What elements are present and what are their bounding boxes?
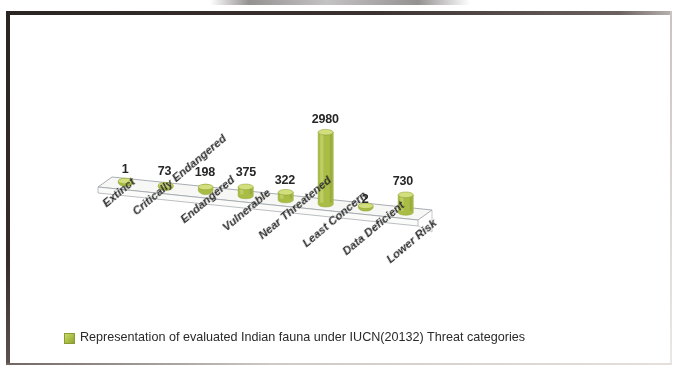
frame-border-right — [670, 11, 672, 365]
chart-frame: 17319837532229802730 ExtinctCritically E… — [6, 11, 672, 365]
value-label-near-threatened: 322 — [275, 173, 295, 187]
value-label-endangered: 198 — [195, 165, 215, 179]
legend-label: Representation of evaluated Indian fauna… — [80, 329, 525, 347]
bar-chart-3d — [10, 15, 670, 363]
value-label-extinct: 1 — [122, 162, 129, 176]
scan-artifact — [210, 0, 470, 5]
legend-color-swatch — [64, 333, 75, 344]
value-label-lower-risk: 730 — [393, 174, 413, 188]
chart-legend: Representation of evaluated Indian fauna… — [64, 329, 584, 347]
bar-least-concern — [318, 129, 333, 207]
value-label-vulnerable: 375 — [236, 165, 256, 179]
value-label-least-concern: 2980 — [312, 112, 339, 126]
frame-border-bottom — [6, 363, 672, 365]
chart-plot-area: 17319837532229802730 ExtinctCritically E… — [10, 15, 670, 363]
bar-near-threatened — [278, 189, 293, 202]
